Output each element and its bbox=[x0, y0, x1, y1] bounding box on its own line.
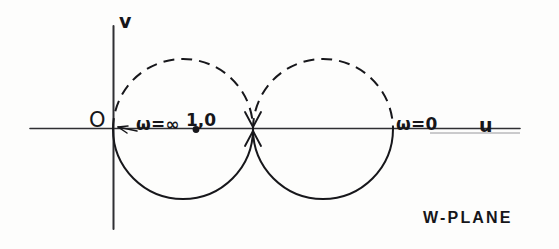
right-loop-lower-solid bbox=[253, 129, 393, 199]
v-axis-label: v bbox=[119, 12, 131, 31]
right-loop-upper-dashed bbox=[253, 59, 393, 129]
origin-label: O bbox=[89, 110, 106, 131]
u-axis-label: u bbox=[479, 116, 493, 135]
plane-caption: W-PLANE bbox=[423, 210, 513, 226]
unit-point-label: 1,0 bbox=[186, 112, 216, 129]
left-loop-lower-solid bbox=[113, 129, 253, 199]
omega-infinity-label: ω=∞ bbox=[136, 116, 180, 133]
omega-zero-label: ω=0 bbox=[396, 116, 437, 133]
left-loop-upper-dashed bbox=[113, 59, 253, 129]
w-plane-diagram: v u O ω=∞ 1,0 ω=0 W-PLANE bbox=[0, 0, 559, 249]
